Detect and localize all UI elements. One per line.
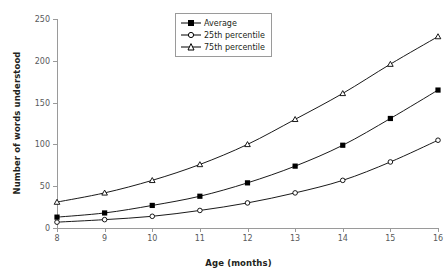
data-point [198, 208, 203, 213]
x-tick-mark [390, 228, 391, 232]
line-chart: Number of words understood 0501001502002… [0, 0, 445, 277]
y-axis-title: Number of words understood [12, 33, 22, 213]
x-tick-label: 14 [338, 234, 348, 243]
data-point [102, 217, 107, 222]
data-point [245, 180, 250, 185]
series-line [57, 37, 438, 203]
x-tick-mark [343, 228, 344, 232]
data-point [245, 201, 250, 206]
data-point [388, 61, 394, 66]
legend-label-average: Average [202, 19, 237, 28]
legend-item-average[interactable]: Average [180, 17, 265, 29]
data-point [340, 178, 345, 183]
data-point [293, 191, 298, 196]
data-point [245, 142, 251, 147]
data-point [102, 210, 107, 215]
data-point [197, 194, 202, 199]
x-tick-label: 16 [433, 234, 443, 243]
legend-label-25th-percentile: 25th percentile [202, 31, 265, 40]
x-tick-mark [152, 228, 153, 232]
legend-item-25th-percentile[interactable]: 25th percentile [180, 29, 265, 41]
x-tick-mark [200, 228, 201, 232]
legend: Average 25th percentile 75th percentile [175, 13, 272, 57]
data-point [150, 203, 155, 208]
data-point [388, 116, 393, 121]
data-point [150, 214, 155, 219]
x-tick-label: 12 [242, 234, 252, 243]
data-point [292, 117, 298, 122]
y-tick-label: 250 [35, 15, 50, 24]
legend-item-75th-percentile[interactable]: 75th percentile [180, 41, 265, 53]
x-tick-mark [438, 228, 439, 232]
data-point [340, 143, 345, 148]
filled-square-icon [180, 17, 202, 29]
x-axis-title-wrap: Age (months) [0, 258, 445, 268]
data-point [435, 34, 441, 39]
y-tick-label: 200 [35, 56, 50, 65]
data-point [293, 164, 298, 169]
y-tick-label: 150 [35, 98, 50, 107]
x-tick-label: 11 [195, 234, 205, 243]
open-circle-icon [180, 29, 202, 41]
y-tick-label: 50 [40, 182, 50, 191]
x-tick-label: 8 [54, 234, 59, 243]
open-triangle-icon [180, 41, 202, 53]
x-tick-label: 15 [385, 234, 395, 243]
x-tick-mark [295, 228, 296, 232]
y-tick-label: 0 [45, 224, 50, 233]
series-average [54, 87, 440, 219]
x-tick-label: 10 [147, 234, 157, 243]
data-point [340, 91, 346, 96]
legend-label-75th-percentile: 75th percentile [202, 43, 265, 52]
x-tick-mark [248, 228, 249, 232]
y-tick-label: 100 [35, 140, 50, 149]
x-tick-mark [57, 228, 58, 232]
series-75th-percentile [54, 34, 441, 205]
series-line [57, 90, 438, 217]
x-tick-mark [105, 228, 106, 232]
data-point [436, 138, 441, 143]
data-point [55, 220, 60, 225]
x-axis-title: Age (months) [173, 258, 271, 268]
x-tick-label: 9 [102, 234, 107, 243]
data-point [54, 215, 59, 220]
x-tick-label: 13 [290, 234, 300, 243]
data-point [388, 160, 393, 165]
data-point [435, 87, 440, 92]
